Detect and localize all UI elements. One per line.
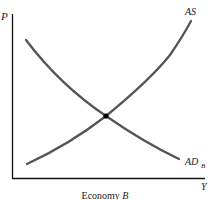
x-axis-label: Y bbox=[201, 181, 208, 192]
equilibrium-point bbox=[103, 113, 108, 118]
ad-curve bbox=[26, 40, 179, 159]
ad-label-main: AD bbox=[184, 156, 199, 167]
ad-label-subscript: B bbox=[201, 162, 206, 170]
ad-as-diagram: P Y AS AD B Economy B bbox=[0, 0, 211, 200]
diagram-caption: Economy B bbox=[82, 190, 129, 200]
caption-italic: B bbox=[122, 190, 128, 200]
ad-curve-label: AD B bbox=[184, 156, 206, 170]
y-axis-label: P bbox=[0, 10, 8, 22]
caption-text: Economy bbox=[82, 190, 123, 200]
as-curve bbox=[27, 21, 191, 164]
as-curve-label: AS bbox=[184, 6, 196, 17]
